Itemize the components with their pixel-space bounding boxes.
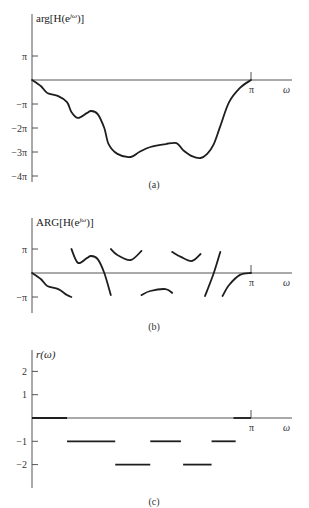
- phase-segment: [32, 273, 71, 297]
- phase-segment: [142, 289, 173, 295]
- y-tick-label: π: [22, 51, 27, 62]
- y-axis-title: ARG[H(ejω)]: [36, 216, 94, 229]
- phase-segment: [71, 249, 110, 295]
- panel-caption: (b): [148, 321, 160, 333]
- y-tick-label: −π: [16, 99, 27, 110]
- panel-b-principal-phase-chart: πωπ−πARG[H(ejω)](b): [16, 216, 292, 333]
- panel-a-unwrapped-phase-chart: πωπ−π−2π−3π−4πarg[H(ejω)](a): [11, 12, 292, 191]
- figure-canvas: πωπ−π−2π−3π−4πarg[H(ejω)](a) πωπ−πARG[H(…: [0, 0, 309, 508]
- y-tick-label: −2π: [11, 123, 27, 134]
- phase-segment: [172, 252, 200, 261]
- x-tick-label-pi: π: [249, 422, 254, 433]
- panel-caption: (c): [148, 496, 159, 508]
- y-tick-label: π: [22, 244, 27, 255]
- phase-curve: [32, 80, 251, 158]
- y-tick-label: 1: [22, 389, 27, 400]
- phase-segment: [111, 249, 142, 260]
- y-tick-label: 2: [22, 366, 27, 377]
- x-tick-label-pi: π: [249, 84, 254, 95]
- phase-segment: [205, 252, 220, 296]
- y-axis-title: arg[H(ejω)]: [36, 12, 84, 25]
- y-tick-label: −3π: [11, 147, 27, 158]
- y-tick-label: −1: [16, 436, 27, 447]
- y-tick-label: −2: [16, 459, 27, 470]
- y-tick-label: −π: [16, 292, 27, 303]
- y-tick-label: −4π: [11, 171, 27, 182]
- panel-caption: (a): [148, 179, 159, 191]
- x-tick-label-pi: π: [249, 277, 254, 288]
- x-axis-label-omega: ω: [283, 277, 290, 288]
- x-axis-label-omega: ω: [283, 422, 290, 433]
- phase-segment: [223, 273, 251, 296]
- panel-c-r-omega-step-chart: πω21−1−2r(ω)(c): [16, 348, 292, 508]
- x-axis-label-omega: ω: [283, 84, 290, 95]
- y-axis-title: r(ω): [36, 348, 56, 361]
